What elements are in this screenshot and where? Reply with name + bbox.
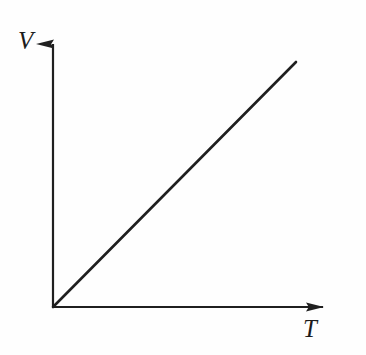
data-line-series-0 — [53, 62, 296, 307]
graph-plot-area — [0, 0, 366, 355]
figure-canvas: V T — [0, 0, 366, 355]
x-axis-label: T — [303, 316, 317, 341]
y-axis-label: V — [18, 28, 33, 53]
